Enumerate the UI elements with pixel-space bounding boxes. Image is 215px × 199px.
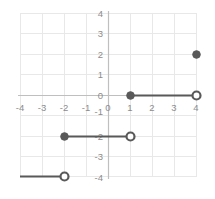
point-filled-4-2 <box>193 51 201 59</box>
point-open-minus2-minus4 <box>61 173 69 181</box>
x-tick-label-4: 4 <box>193 102 198 113</box>
x-tick-label-0: 0 <box>105 102 110 113</box>
x-tick-label--1: -1 <box>82 102 90 113</box>
point-open-1-minus2 <box>127 133 135 141</box>
y-tick-label--3: -3 <box>95 151 103 162</box>
y-tick-label-1: 1 <box>98 69 103 80</box>
x-tick-label--3: -3 <box>38 102 46 113</box>
point-filled-minus2-minus2 <box>61 133 69 141</box>
x-tick-label-1: 1 <box>127 102 132 113</box>
plot-area: 4 3 2 1 0 -1 -2 -3 -4 -4 -3 -2 -1 0 1 2 … <box>0 0 215 199</box>
y-tick-label--4: -4 <box>95 172 103 183</box>
chart-background <box>0 0 215 199</box>
x-tick-label--2: -2 <box>60 102 68 113</box>
y-tick-label--1: -1 <box>95 106 103 117</box>
step-function-chart: 4 3 2 1 0 -1 -2 -3 -4 -4 -3 -2 -1 0 1 2 … <box>0 0 215 199</box>
point-open-4-0 <box>193 92 201 100</box>
y-tick-label-2: 2 <box>98 49 103 60</box>
y-tick-label-4: 4 <box>98 8 103 19</box>
y-tick-label-3: 3 <box>98 28 103 39</box>
y-tick-label-0: 0 <box>98 90 103 101</box>
point-filled-1-0 <box>127 92 135 100</box>
x-tick-label-3: 3 <box>171 102 176 113</box>
x-tick-labels: -4 -3 -2 -1 0 1 2 3 4 <box>16 102 199 113</box>
x-tick-label--4: -4 <box>16 102 24 113</box>
x-tick-label-2: 2 <box>149 102 154 113</box>
